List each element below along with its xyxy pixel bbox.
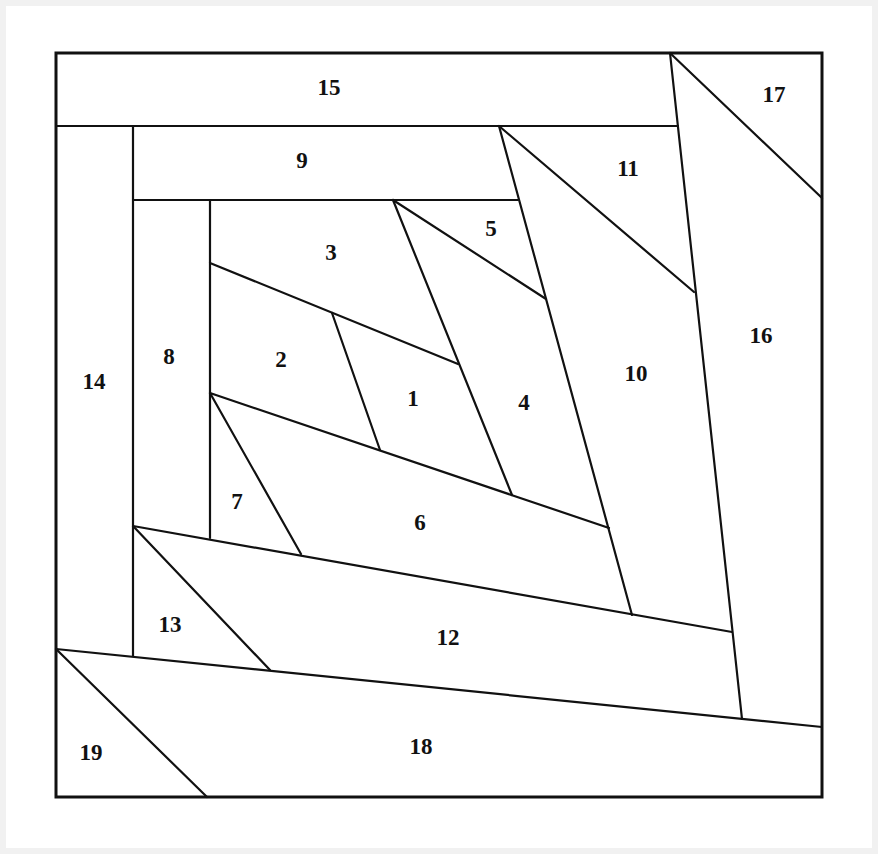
piece-label-4: 4 <box>518 391 530 414</box>
piece-label-5: 5 <box>485 217 497 240</box>
piece-label-18: 18 <box>410 735 433 758</box>
piece-label-2: 2 <box>275 348 287 371</box>
block-outer-border <box>56 53 822 797</box>
piece-label-15: 15 <box>318 76 341 99</box>
piece-label-14: 14 <box>83 370 106 393</box>
piece-label-16: 16 <box>750 324 773 347</box>
piece-label-3: 3 <box>325 241 337 264</box>
piece-label-6: 6 <box>414 511 426 534</box>
piece-label-7: 7 <box>231 490 243 513</box>
piece-label-8: 8 <box>163 345 175 368</box>
piece-label-12: 12 <box>437 626 460 649</box>
quilt-block-pattern <box>0 0 878 854</box>
piece-label-10: 10 <box>625 362 648 385</box>
piece-label-19: 19 <box>80 741 103 764</box>
piece-label-11: 11 <box>617 157 639 180</box>
piece-label-1: 1 <box>407 387 419 410</box>
piece-label-9: 9 <box>296 149 308 172</box>
piece-label-13: 13 <box>159 613 182 636</box>
piece-label-17: 17 <box>763 83 786 106</box>
